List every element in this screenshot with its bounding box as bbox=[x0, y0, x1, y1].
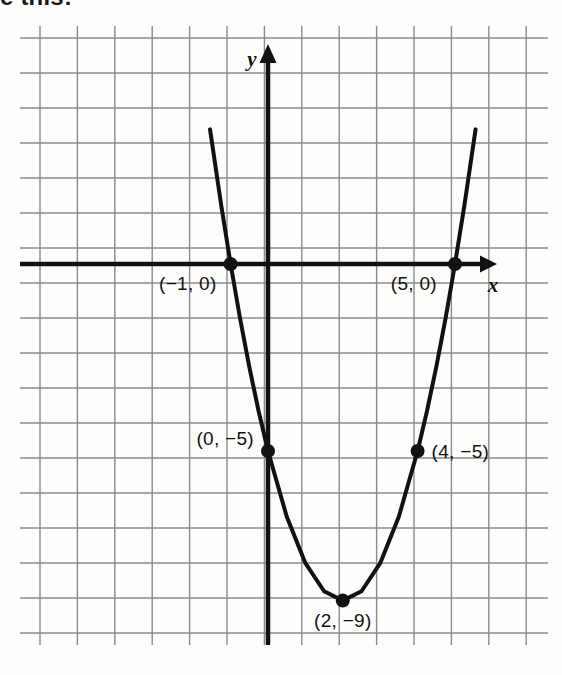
x-axis-letter: x bbox=[487, 273, 499, 297]
point-vertex bbox=[336, 594, 350, 608]
parabola-path bbox=[210, 129, 476, 600]
parabola-curve bbox=[210, 129, 476, 600]
point-y-intercept bbox=[261, 444, 275, 458]
point-root-left bbox=[224, 257, 238, 271]
plotted-points bbox=[224, 257, 462, 608]
label-mirror-point: (4, −5) bbox=[432, 441, 490, 462]
y-axis-letter: y bbox=[244, 47, 257, 71]
point-labels: (−1, 0)(5, 0)(0, −5)(4, −5)(2, −9) bbox=[159, 273, 489, 631]
graph-figure: e this: (−1, 0)(5, 0)(0, −5)(4, −5)(2, −… bbox=[0, 0, 562, 675]
label-root-left: (−1, 0) bbox=[159, 273, 217, 294]
coordinate-plane: (−1, 0)(5, 0)(0, −5)(4, −5)(2, −9) xy bbox=[0, 0, 562, 675]
cut-off-heading: e this: bbox=[0, 0, 72, 11]
label-y-intercept: (0, −5) bbox=[196, 428, 254, 449]
point-mirror-point bbox=[411, 444, 425, 458]
label-root-right: (5, 0) bbox=[391, 273, 437, 294]
axes bbox=[20, 44, 497, 645]
grid-lines bbox=[20, 26, 548, 645]
point-root-right bbox=[448, 257, 462, 271]
label-vertex: (2, −9) bbox=[314, 610, 372, 631]
y-axis-arrowhead bbox=[260, 44, 277, 63]
